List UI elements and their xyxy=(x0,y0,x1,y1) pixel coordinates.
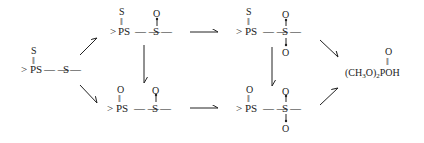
tail: — xyxy=(70,64,81,75)
prefix: > xyxy=(236,103,242,114)
prefix: > xyxy=(21,64,27,75)
oxide-atom: O xyxy=(153,8,160,19)
arrow-start-to-bottom xyxy=(80,85,97,103)
s-label: S xyxy=(153,26,159,37)
oxide-bottom: O xyxy=(282,123,289,134)
ps-label: PS xyxy=(30,64,42,75)
product-formula: (CH3O)2POH xyxy=(345,67,400,78)
prefix: > xyxy=(236,26,242,37)
s-label: S xyxy=(282,26,288,37)
reaction-scheme: S ‖ > PS — — S — S ‖ > PS — — S — O O ‖ … xyxy=(0,0,424,143)
s-label: S xyxy=(152,103,158,114)
arrow-top-sulfone-to-product xyxy=(320,40,338,57)
double-bond: ‖ xyxy=(386,56,389,67)
tail: — xyxy=(290,26,301,37)
ps-label: PS xyxy=(245,26,257,37)
oxide-top: O xyxy=(282,86,289,97)
arrow-bottom-sulfone-to-product xyxy=(320,88,338,105)
tail: — xyxy=(161,26,172,37)
ps-label: PS xyxy=(116,103,128,114)
ps-label: PS xyxy=(118,26,130,37)
s-label: S xyxy=(63,64,69,75)
prefix: > xyxy=(107,103,113,114)
oxide-bottom: O xyxy=(282,47,289,58)
oxide-atom: O xyxy=(152,85,159,96)
ps-label: PS xyxy=(245,103,257,114)
oxide-top: O xyxy=(282,9,289,20)
s-label: S xyxy=(282,103,288,114)
prefix: > xyxy=(110,26,116,37)
tail: — xyxy=(290,103,301,114)
tail: — xyxy=(160,103,171,114)
arrow-start-to-top xyxy=(80,38,97,55)
